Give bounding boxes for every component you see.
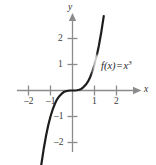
function-label-exponent: 3 <box>128 59 132 67</box>
plot-canvas <box>0 0 156 165</box>
y-tick-label-neg2: –2 <box>54 138 64 148</box>
y-tick-label-neg1: –1 <box>54 112 64 122</box>
y-axis-label: y <box>68 3 72 13</box>
y-tick-label-pos2: 2 <box>58 34 63 44</box>
function-label: f(x)=x3 <box>96 58 136 75</box>
cubic-function-graph-figure: –2 –1 1 2 2 1 –1 –2 y x f(x)=x3 <box>0 0 156 165</box>
x-tick-label-neg1: –1 <box>46 97 56 107</box>
y-tick-label-pos1: 1 <box>58 60 63 70</box>
y-axis-arrowhead <box>69 13 76 21</box>
function-label-equals: = <box>116 60 124 71</box>
function-label-name: f(x) <box>101 60 116 71</box>
x-axis-arrowhead <box>133 87 142 94</box>
x-axis-label: x <box>144 85 148 95</box>
x-tick-label-neg2: –2 <box>24 97 34 107</box>
x-tick-label-pos2: 2 <box>114 97 119 107</box>
x-tick-label-pos1: 1 <box>92 97 97 107</box>
